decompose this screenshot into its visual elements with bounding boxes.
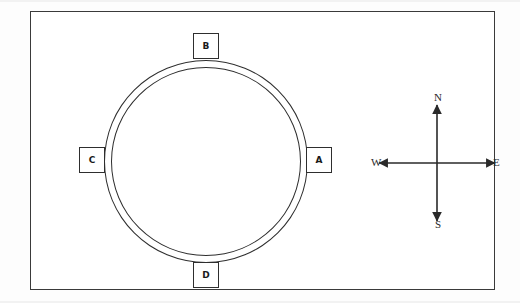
compass-arrows-svg [379, 90, 499, 238]
compass-label-south: S [435, 219, 441, 230]
station-box-a: A [306, 147, 332, 173]
scan-edge-top [0, 0, 520, 2]
station-label-b: B [203, 41, 210, 51]
ring-inner-circle [111, 67, 301, 256]
station-label-d: D [202, 270, 209, 280]
compass-label-north: N [434, 92, 442, 103]
compass-rose [379, 90, 499, 238]
figure-canvas: A B C D [0, 0, 520, 303]
station-label-a: A [316, 155, 323, 165]
compass-label-east: E [493, 157, 500, 168]
station-label-c: C [89, 155, 96, 165]
station-box-c: C [79, 147, 105, 173]
station-box-b: B [193, 33, 219, 59]
diagram-frame: A B C D [30, 11, 495, 290]
station-box-d: D [193, 262, 219, 288]
compass-label-west: W [371, 157, 381, 168]
